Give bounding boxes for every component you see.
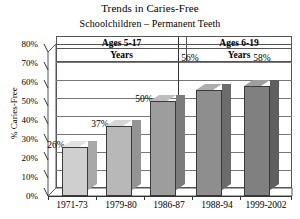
bar-front-face bbox=[62, 147, 88, 196]
x-tick-label-1999-2002: 1999-2002 bbox=[234, 200, 298, 210]
chart-subtitle: Schoolchildren – Permanent Teeth bbox=[0, 18, 300, 29]
y-tick-label: 70% bbox=[10, 58, 38, 68]
bar-side-face bbox=[132, 120, 141, 190]
bar-front-face bbox=[150, 101, 176, 196]
bar-side-face bbox=[270, 80, 279, 190]
y-tick-label: 60% bbox=[10, 77, 38, 87]
data-label-1988-94: 56% bbox=[170, 53, 210, 63]
x-tick-label-1971-73: 1971-73 bbox=[44, 200, 100, 210]
chart-container: Trends in Caries-Free Schoolchildren – P… bbox=[0, 0, 300, 219]
bar-side-face bbox=[176, 95, 185, 190]
x-axis-line bbox=[48, 196, 292, 197]
bar-side-face bbox=[222, 84, 231, 190]
bar-1999-2002 bbox=[244, 86, 270, 196]
y-tick-label: 80% bbox=[10, 39, 38, 49]
group-sublabel-years-1: Years bbox=[56, 49, 186, 62]
bar-front-face bbox=[106, 126, 132, 196]
bar-front-face bbox=[196, 90, 222, 196]
bar-1979-80 bbox=[106, 126, 132, 196]
bar-1988-94 bbox=[196, 90, 222, 196]
y-tick-label: 40% bbox=[10, 115, 38, 125]
group-label-ages-5-17: Ages 5-17 bbox=[56, 36, 186, 49]
y-tick-label: 0% bbox=[10, 191, 38, 201]
bar-1971-73 bbox=[62, 147, 88, 196]
y-tick-label: 50% bbox=[10, 96, 38, 106]
y-tick-label: 30% bbox=[10, 134, 38, 144]
bar-front-face bbox=[244, 86, 270, 196]
y-tick-label: 20% bbox=[10, 153, 38, 163]
chart-title: Trends in Caries-Free bbox=[0, 2, 300, 14]
group-label-ages-6-19: Ages 6-19 bbox=[186, 36, 292, 49]
bar-1986-87 bbox=[150, 101, 176, 196]
y-tick-label: 10% bbox=[10, 172, 38, 182]
bar-side-face bbox=[88, 141, 97, 190]
data-label-1999-2002: 58% bbox=[242, 53, 282, 63]
